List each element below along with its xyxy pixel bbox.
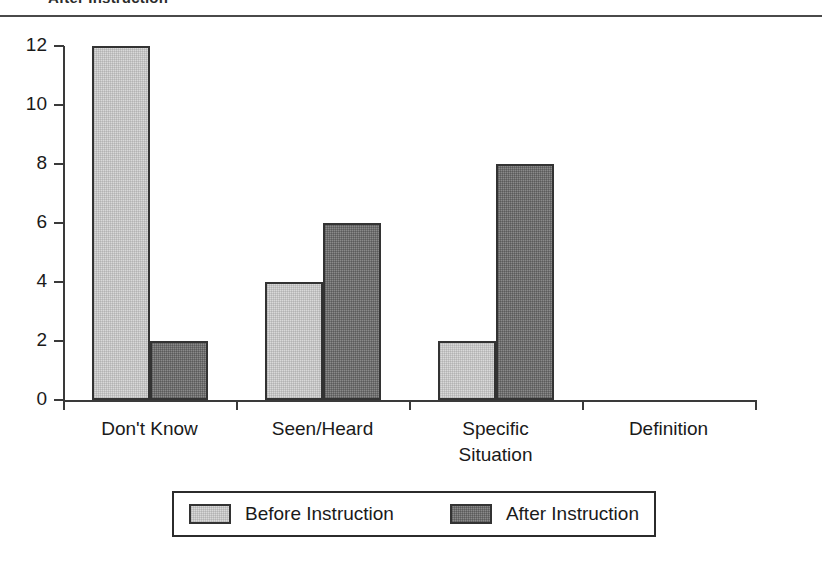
legend-entry: After Instruction [450,503,639,525]
chart-legend: Before InstructionAfter Instruction [172,491,656,537]
legend-entry: Before Instruction [189,503,394,525]
category-label-line: Definition [582,416,755,442]
x-axis-category-labels: Don't KnowSeen/HeardSpecificSituationDef… [63,416,755,486]
bars-layer [63,18,755,402]
y-axis-tick-label: 8 [36,153,47,173]
bar-group [409,18,582,402]
category-label-line: Specific [409,416,582,442]
y-axis-tick-label: 12 [26,35,47,55]
category-label-line: Situation [409,442,582,468]
bar-before-instruction [265,282,323,400]
x-axis-tick-mark [755,400,757,410]
bar-group [582,18,755,402]
y-axis-tick-label: 2 [36,330,47,350]
bar-after-instruction [496,164,554,400]
y-axis-tick-label: 4 [36,271,47,291]
category-label-line: Seen/Heard [236,416,409,442]
plot-area: 024681012 [0,18,822,418]
bar-after-instruction [150,341,208,400]
legend-label: Before Instruction [245,503,394,525]
header-divider-rule [0,15,822,17]
bar-after-instruction [323,223,381,400]
page-header: After Instruction [0,0,822,16]
x-axis-category-label: Seen/Heard [236,416,409,442]
x-axis-category-label: SpecificSituation [409,416,582,468]
legend-swatch-after-instruction [450,504,492,524]
running-header-title: After Instruction [48,0,168,6]
x-axis-category-label: Definition [582,416,755,442]
bar-group [63,18,236,402]
bar-before-instruction [438,341,496,400]
legend-swatch-before-instruction [189,504,231,524]
x-axis-category-label: Don't Know [63,416,236,442]
category-label-line: Don't Know [63,416,236,442]
y-axis-tick-label: 0 [36,389,47,409]
y-axis-tick-label: 10 [26,94,47,114]
bar-group [236,18,409,402]
legend-label: After Instruction [506,503,639,525]
y-axis-tick-label: 6 [36,212,47,232]
bar-before-instruction [92,46,150,400]
bar-chart-figure: 024681012 Don't KnowSeen/HeardSpecificSi… [0,18,822,568]
